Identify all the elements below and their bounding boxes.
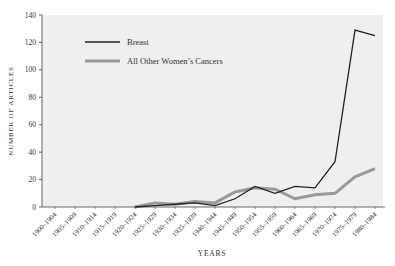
y-tick-label: 140 xyxy=(25,11,37,20)
y-tick-label: 100 xyxy=(25,65,37,74)
y-tick-label: 60 xyxy=(29,120,37,129)
y-axis-label: NUMBER OF ARTICLES xyxy=(7,66,15,155)
legend-label: Breast xyxy=(127,37,149,47)
line-chart: 020406080100120140 1900–19041905–1909191… xyxy=(0,0,395,266)
legend-label: All Other Women’s Cancers xyxy=(127,56,223,66)
plot-area xyxy=(42,15,383,207)
y-tick-label: 0 xyxy=(32,203,36,212)
x-axis: 1900–19041905–19091910–19141915–19191920… xyxy=(30,207,385,239)
y-axis: 020406080100120140 xyxy=(25,11,42,212)
x-axis-label: YEARS xyxy=(198,249,227,258)
y-tick-label: 120 xyxy=(25,38,37,47)
y-tick-label: 20 xyxy=(29,175,37,184)
y-tick-label: 40 xyxy=(29,148,37,157)
y-tick-label: 80 xyxy=(29,93,37,102)
